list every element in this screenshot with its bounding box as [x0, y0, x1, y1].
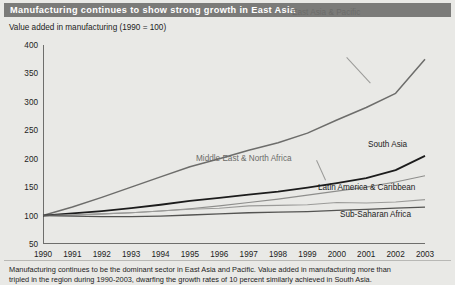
- x-tick-2002: 2002: [387, 250, 405, 259]
- x-tick-1994: 1994: [151, 250, 169, 259]
- x-tick-1999: 1999: [298, 250, 316, 259]
- x-tick-2000: 2000: [328, 250, 346, 259]
- y-tick-400: 400: [14, 41, 38, 50]
- chart-title-bar: Manufacturing continues to show strong g…: [4, 3, 451, 17]
- x-tick-1993: 1993: [122, 250, 140, 259]
- x-tick-1995: 1995: [181, 250, 199, 259]
- plot-area: 50100150200250300350400 1990199119921993…: [43, 45, 425, 244]
- chart-figure: Manufacturing continues to show strong g…: [0, 0, 455, 285]
- footnote-line-2: tripled in the region during 1990-2003, …: [9, 275, 449, 285]
- y-tick-250: 250: [14, 126, 38, 135]
- x-tick-1991: 1991: [63, 250, 81, 259]
- y-tick-150: 150: [14, 183, 38, 192]
- x-tick-1996: 1996: [210, 250, 228, 259]
- y-tick-100: 100: [14, 211, 38, 220]
- series-label-latin-america-caribbean: Latin America & Caribbean: [318, 183, 415, 192]
- x-tick-1992: 1992: [93, 250, 111, 259]
- series-label-east-asia-pacific: East Asia & Pacific: [292, 8, 360, 17]
- series-label-sub-saharan-africa: Sub-Saharan Africa: [340, 210, 411, 219]
- y-tick-350: 350: [14, 69, 38, 78]
- x-tick-1990: 1990: [34, 250, 52, 259]
- footnote-line-1: Manufacturing continues to be the domina…: [9, 265, 449, 275]
- series-label-south-asia: South Asia: [368, 140, 407, 149]
- x-tick-2001: 2001: [357, 250, 375, 259]
- x-tick-1998: 1998: [269, 250, 287, 259]
- y-tick-50: 50: [14, 240, 38, 249]
- chart-subtitle: Value added in manufacturing (1990 = 100…: [9, 23, 166, 32]
- footnote-divider: [4, 260, 451, 261]
- series-line-east-asia-pacific: [43, 59, 425, 215]
- y-tick-200: 200: [14, 154, 38, 163]
- y-tick-300: 300: [14, 97, 38, 106]
- chart-footnote: Manufacturing continues to be the domina…: [9, 265, 449, 284]
- x-tick-1997: 1997: [240, 250, 258, 259]
- series-label-middle-east-north-africa: Middle East & North Africa: [196, 154, 292, 163]
- chart-title: Manufacturing continues to show strong g…: [4, 5, 295, 15]
- x-tick-2003: 2003: [416, 250, 434, 259]
